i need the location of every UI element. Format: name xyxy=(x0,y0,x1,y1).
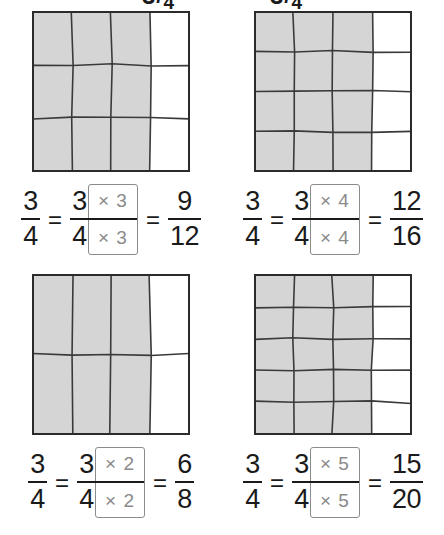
numerator: 3 xyxy=(243,450,262,479)
fraction-bar xyxy=(70,218,89,220)
base-fraction: 3 4 xyxy=(77,450,96,514)
fraction-equation: 3 4 = 3 4 × 4 × 4 = 12 xyxy=(243,187,423,251)
denominator: 4 xyxy=(243,485,262,514)
fraction-grid-svg xyxy=(31,10,191,173)
numerator: 3 xyxy=(77,450,96,479)
denominator: 4 xyxy=(28,485,47,514)
multiplier-top: × 5 xyxy=(311,448,359,482)
equals-sign: = xyxy=(48,206,62,234)
page-title-fraction: 3/4 3/4 xyxy=(0,0,444,8)
denominator: 4 xyxy=(292,222,311,251)
equivalent-fraction-panels: 3 4 = 3 4 × 3 × 3 = 9 xyxy=(0,8,444,535)
fraction-panel: 3 4 = 3 4 × 3 × 3 = 9 xyxy=(0,8,222,271)
equation-left-fraction: 3 4 xyxy=(21,187,40,251)
multiplier-bottom: × 5 xyxy=(311,482,359,517)
equals-sign: = xyxy=(153,469,167,497)
fraction-bar xyxy=(243,218,262,220)
multiplier-bottom: × 4 xyxy=(311,219,359,254)
fraction-grid-diagram xyxy=(31,273,191,436)
multiplier-bottom: × 3 xyxy=(89,219,137,254)
fraction-equation: 3 4 = 3 4 × 2 × 2 = 6 xyxy=(28,450,194,514)
equation-result-fraction: 9 12 xyxy=(168,187,201,251)
fraction-bar xyxy=(292,218,311,220)
multiplier-top: × 2 xyxy=(96,448,144,482)
numerator: 12 xyxy=(390,187,423,216)
equation-middle-composite: 3 4 × 4 × 4 xyxy=(292,184,360,255)
numerator: 15 xyxy=(390,450,423,479)
multiplier-bottom: × 2 xyxy=(96,482,144,517)
numerator: 3 xyxy=(292,450,311,479)
fraction-bar-extended xyxy=(89,218,137,220)
denominator: 8 xyxy=(175,485,194,514)
equation-result-fraction: 15 20 xyxy=(390,450,423,514)
fraction-grid-diagram xyxy=(253,10,413,173)
multiplier-top: × 3 xyxy=(89,185,137,219)
equation-result-fraction: 6 8 xyxy=(175,450,194,514)
fraction-grid-svg xyxy=(31,273,191,436)
fraction-bar xyxy=(292,481,311,483)
title-numerator: 3 xyxy=(270,0,283,8)
equals-sign: = xyxy=(146,206,160,234)
equals-sign: = xyxy=(368,469,382,497)
fraction-panel: 3 4 = 3 4 × 4 × 4 = 12 xyxy=(222,8,444,271)
denominator: 12 xyxy=(168,222,201,251)
denominator: 4 xyxy=(77,485,96,514)
fraction-bar xyxy=(77,481,96,483)
equation-left-fraction: 3 4 xyxy=(28,450,47,514)
equals-sign: = xyxy=(368,206,382,234)
numerator: 3 xyxy=(28,450,47,479)
fraction-bar-extended xyxy=(311,481,359,483)
fraction-panel: 3 4 = 3 4 × 2 × 2 = 6 xyxy=(0,271,222,535)
equation-middle-composite: 3 4 × 5 × 5 xyxy=(292,447,360,518)
denominator: 4 xyxy=(292,485,311,514)
numerator: 3 xyxy=(292,187,311,216)
fraction-equation: 3 4 = 3 4 × 3 × 3 = 9 xyxy=(21,187,201,251)
denominator: 20 xyxy=(390,485,423,514)
denominator: 4 xyxy=(70,222,89,251)
base-fraction: 3 4 xyxy=(292,450,311,514)
multiplier-top: × 4 xyxy=(311,185,359,219)
fraction-bar xyxy=(28,481,47,483)
numerator: 3 xyxy=(21,187,40,216)
title-fraction-left: 3/4 xyxy=(142,0,174,8)
fraction-equation: 3 4 = 3 4 × 5 × 5 = 15 xyxy=(243,450,423,514)
fraction-bar xyxy=(390,481,423,483)
fraction-grid-diagram xyxy=(31,10,191,173)
denominator: 4 xyxy=(21,222,40,251)
fraction-bar-extended xyxy=(96,481,144,483)
title-numerator: 3 xyxy=(142,0,155,8)
fraction-bar xyxy=(21,218,40,220)
multiplier-box: × 4 × 4 xyxy=(310,184,360,255)
title-fraction-right: 3/4 xyxy=(270,0,302,8)
fraction-grid-diagram xyxy=(253,273,413,436)
equation-left-fraction: 3 4 xyxy=(243,187,262,251)
equation-left-fraction: 3 4 xyxy=(243,450,262,514)
numerator: 6 xyxy=(175,450,194,479)
fraction-panel: 3 4 = 3 4 × 5 × 5 = 15 xyxy=(222,271,444,535)
multiplier-box: × 5 × 5 xyxy=(310,447,360,518)
fraction-bar-extended xyxy=(311,218,359,220)
equals-sign: = xyxy=(55,469,69,497)
fraction-bar xyxy=(390,218,423,220)
multiplier-box: × 3 × 3 xyxy=(88,184,138,255)
multiplier-box: × 2 × 2 xyxy=(95,447,145,518)
title-slash: / xyxy=(156,0,162,7)
fraction-bar xyxy=(168,218,201,220)
fraction-bar xyxy=(175,481,194,483)
fraction-grid-svg xyxy=(253,273,413,436)
fraction-bar xyxy=(243,481,262,483)
base-fraction: 3 4 xyxy=(70,187,89,251)
equals-sign: = xyxy=(270,206,284,234)
fraction-grid-svg xyxy=(253,10,413,173)
base-fraction: 3 4 xyxy=(292,187,311,251)
equals-sign: = xyxy=(270,469,284,497)
numerator: 3 xyxy=(243,187,262,216)
denominator: 4 xyxy=(243,222,262,251)
equation-middle-composite: 3 4 × 2 × 2 xyxy=(77,447,145,518)
equation-result-fraction: 12 16 xyxy=(390,187,423,251)
equation-middle-composite: 3 4 × 3 × 3 xyxy=(70,184,138,255)
numerator: 9 xyxy=(175,187,194,216)
denominator: 16 xyxy=(390,222,423,251)
numerator: 3 xyxy=(70,187,89,216)
title-slash: / xyxy=(284,0,290,7)
